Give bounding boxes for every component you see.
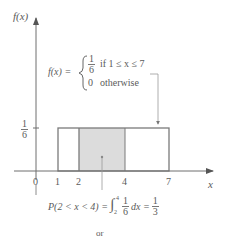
- x-tick-2: 2: [76, 176, 81, 187]
- pdf-lhs-text: f(x) =: [48, 66, 71, 77]
- integrand-denominator: 6: [122, 207, 129, 217]
- x-tick-4: 4: [122, 176, 127, 187]
- integral-sign: ∫ 4 2: [110, 198, 120, 216]
- case1-denominator: 6: [88, 65, 95, 75]
- y-axis-label: f(x): [13, 10, 28, 22]
- x-tick-1: 1: [55, 176, 60, 187]
- probability-formula: P(2 < x < 4) = ∫ 4 2 16 dx = 13: [48, 196, 159, 217]
- y-tick-denominator: 6: [21, 130, 28, 140]
- probability-pointer-dot: [101, 156, 103, 158]
- pdf-lhs: f(x) =: [48, 66, 71, 77]
- x-axis-label: x: [208, 178, 213, 190]
- pdf-case2-condition: otherwise: [100, 77, 139, 88]
- pdf-case1-value: 16: [88, 54, 95, 75]
- integral-lower-bound: 2: [114, 209, 117, 215]
- pdf-case2-value: 0: [88, 77, 93, 88]
- probability-lhs: P(2 < x < 4) =: [48, 201, 108, 212]
- y-tick-label: 16: [21, 119, 28, 140]
- x-tick-7: 7: [166, 176, 171, 187]
- definition-callout-line: [150, 74, 158, 124]
- cases-brace-icon: [79, 56, 87, 90]
- differential-dx: dx =: [131, 201, 150, 212]
- integral-upper-bound: 4: [116, 195, 119, 201]
- footer-or: or: [96, 228, 104, 238]
- pdf-case1-condition: if 1 ≤ x ≤ 7: [100, 58, 145, 69]
- result-denominator: 3: [152, 207, 159, 217]
- x-tick-0: 0: [33, 176, 38, 187]
